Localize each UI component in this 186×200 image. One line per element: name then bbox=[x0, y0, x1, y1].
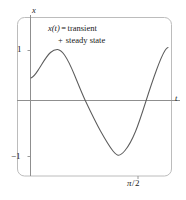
pi-symbol: π bbox=[127, 178, 132, 188]
denominator-two: 2 bbox=[135, 178, 140, 188]
annotation-line-2: +steady state bbox=[48, 34, 105, 46]
annotation-plus-sign: + bbox=[58, 35, 66, 45]
y-axis-label: x bbox=[32, 6, 36, 15]
annotation-equals-sign: = bbox=[60, 23, 68, 33]
y-tick-label-negative-one: −1 bbox=[11, 152, 21, 161]
x-tick-label-pi-over-two: π/2 bbox=[127, 179, 140, 188]
curve-annotation: x(t)=transient +steady state bbox=[48, 22, 105, 47]
annotation-transient-term: transient bbox=[68, 23, 97, 33]
y-tick-label-positive-one: 1 bbox=[17, 45, 22, 54]
annotation-function-name: x(t) bbox=[48, 23, 60, 33]
annotation-line-1: x(t)=transient bbox=[48, 22, 105, 34]
annotation-steady-state-term: steady state bbox=[66, 35, 105, 45]
figure-container: x t 1 −1 π/2 x(t)=transient +steady stat… bbox=[0, 0, 186, 200]
x-axis-label: t bbox=[175, 94, 177, 103]
